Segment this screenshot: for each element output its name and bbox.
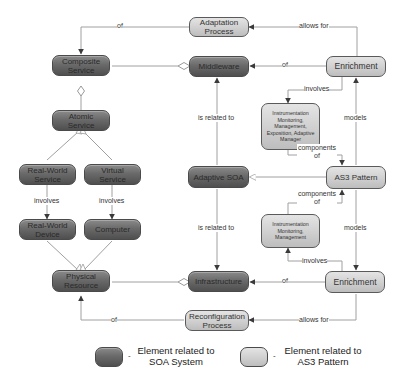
node-instrumentation-top[interactable]: Instrumentation Monitoring, Management, … — [261, 103, 320, 150]
edge-label-involves: involves — [304, 85, 329, 93]
node-infrastructure[interactable]: Infrastructure — [188, 271, 249, 292]
node-real-world-device[interactable]: Real-World Device — [19, 219, 76, 240]
node-label: Real-World Service — [22, 166, 73, 184]
edge-label-of: of — [282, 61, 288, 69]
node-label: Atomic Service — [55, 112, 107, 130]
edge-label-is-related-to: is related to — [198, 114, 234, 122]
edge-label-of: of — [117, 22, 123, 30]
node-label: Virtual Service — [87, 166, 138, 184]
node-adaptive-soa[interactable]: Adaptive SOA — [188, 166, 249, 188]
edge-label-models: models — [344, 114, 367, 122]
node-label: Physical Resource — [55, 272, 107, 290]
node-label: Real-World Device — [22, 221, 73, 239]
legend-separator: - — [128, 351, 131, 360]
node-label: Instrumentation Monitoring, Management — [265, 221, 316, 240]
node-reconfiguration-process[interactable]: Reconfiguration Process — [185, 310, 249, 331]
legend-separator: - — [273, 351, 276, 360]
node-physical-resource[interactable]: Physical Resource — [52, 270, 110, 292]
node-atomic-service[interactable]: Atomic Service — [52, 110, 110, 131]
node-adaptation-process[interactable]: Adaptation Process — [189, 17, 249, 37]
node-label: Instrumentation Monitoring, Management, … — [265, 110, 316, 142]
node-computer[interactable]: Computer — [84, 219, 141, 240]
edge-label-is-related-to: is related to — [198, 224, 234, 232]
node-virtual-service[interactable]: Virtual Service — [84, 164, 141, 185]
node-label: AS3 Pattern — [334, 173, 377, 182]
edge-label-models: models — [344, 224, 367, 232]
node-label: Enrichment — [335, 62, 378, 71]
node-composite-service[interactable]: Composite Service — [52, 55, 110, 76]
node-label: Adaptation Process — [192, 18, 246, 36]
edge-label-components-of: components of — [297, 190, 337, 206]
node-label: Enrichment — [334, 278, 377, 287]
node-enrichment-bottom[interactable]: Enrichment — [325, 271, 385, 293]
node-instrumentation-bottom[interactable]: Instrumentation Monitoring, Management — [261, 214, 320, 248]
edge-label-of: of — [111, 316, 117, 324]
legend-as3-swatch — [240, 347, 268, 367]
legend-as3-label: Element related to AS3 Pattern — [280, 345, 366, 367]
edge-label-of: of — [282, 277, 288, 285]
edge-label-involves: involves — [302, 257, 327, 265]
node-middleware[interactable]: Middleware — [189, 56, 249, 77]
node-label: Composite Service — [55, 57, 107, 75]
edge-label-components-of: components of — [297, 144, 337, 160]
edge-label-allows-for: allows for — [299, 316, 329, 324]
edge-label-involves: involves — [99, 197, 124, 205]
edge-label-involves: involves — [34, 197, 59, 205]
node-as3-pattern[interactable]: AS3 Pattern — [326, 166, 386, 189]
node-real-world-service[interactable]: Real-World Service — [19, 164, 76, 185]
node-enrichment-top[interactable]: Enrichment — [326, 56, 386, 77]
node-label: Middleware — [199, 62, 240, 71]
legend-soa-label: Element related to SOA System — [135, 345, 217, 367]
node-label: Computer — [95, 225, 130, 234]
node-label: Infrastructure — [195, 277, 242, 286]
node-label: Adaptive SOA — [193, 173, 243, 182]
node-label: Reconfiguration Process — [188, 312, 246, 330]
legend-soa-swatch — [95, 347, 123, 367]
edge-label-allows-for: allows for — [299, 22, 329, 30]
